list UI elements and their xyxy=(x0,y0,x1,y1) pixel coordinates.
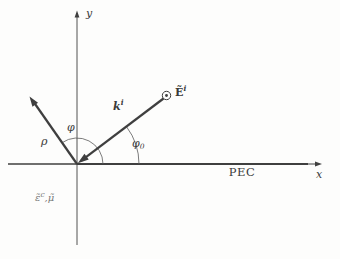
k-vector-superscript: i xyxy=(121,98,124,107)
x-axis-arrowhead-icon xyxy=(315,162,322,167)
figure-canvas: y x PEC ki Ẽi ρ φ φ0 ε̃c,μ̃ xyxy=(0,0,340,259)
mu-label: ,μ̃ xyxy=(45,192,55,203)
y-axis-label: y xyxy=(85,7,93,20)
rho-label: ρ xyxy=(40,135,48,148)
k-vector-label: ki xyxy=(113,98,124,113)
e-field-base: Ẽ xyxy=(175,85,183,99)
field-out-of-page-icon xyxy=(162,91,170,99)
phi0-label: φ0 xyxy=(132,137,145,152)
y-axis-arrowhead-icon xyxy=(75,11,80,18)
incident-wave-vector-shaft xyxy=(81,99,164,161)
phi-label: φ xyxy=(67,121,75,134)
pec-label: PEC xyxy=(229,165,255,179)
x-axis-label: x xyxy=(316,168,323,181)
phi0-subscript: 0 xyxy=(140,142,145,151)
diagram-svg: y x PEC ki Ẽi ρ φ φ0 ε̃c,μ̃ xyxy=(0,0,340,259)
e-field-superscript: i xyxy=(183,84,186,93)
e-field-label: Ẽi xyxy=(175,84,186,99)
medium-parameters-label: ε̃c,μ̃ xyxy=(35,190,54,203)
